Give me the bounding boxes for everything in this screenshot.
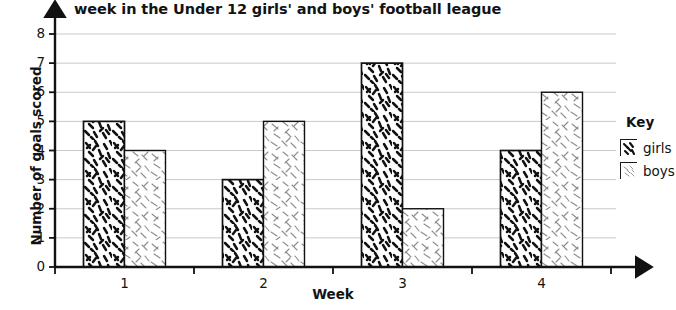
- y-tick-label-7: 7: [23, 54, 45, 70]
- y-tick-label-4: 4: [23, 142, 45, 158]
- x-tick-label-week-2: 2: [234, 275, 294, 291]
- x-tick-label-week-3: 3: [373, 275, 433, 291]
- y-tick-label-6: 6: [23, 83, 45, 99]
- bar-girls-week-4: [501, 151, 542, 268]
- y-tick-label-2: 2: [23, 200, 45, 216]
- bar-girls-week-1: [84, 121, 125, 267]
- y-tick-label-3: 3: [23, 171, 45, 187]
- bar-boys-week-3: [403, 209, 444, 267]
- x-tick-label-week-1: 1: [95, 275, 155, 291]
- plot-area: [0, 0, 676, 310]
- y-tick-label-5: 5: [23, 112, 45, 128]
- bar-boys-week-2: [264, 121, 305, 267]
- y-tick-label-1: 1: [23, 229, 45, 245]
- x-tick-label-week-4: 4: [512, 275, 572, 291]
- bar-girls-week-3: [362, 63, 403, 267]
- chart-canvas: week in the Under 12 girls' and boys' fo…: [0, 0, 676, 310]
- bar-boys-week-1: [125, 151, 166, 268]
- bar-boys-week-4: [542, 92, 583, 267]
- bar-girls-week-2: [223, 180, 264, 267]
- y-tick-label-0: 0: [23, 258, 45, 274]
- y-tick-label-8: 8: [23, 25, 45, 41]
